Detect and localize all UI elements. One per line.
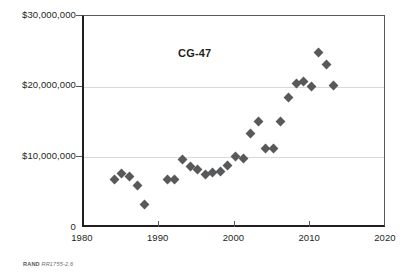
figure-footer: RAND RR1755-2.6 [23,261,73,267]
x-axis-tick [158,221,159,227]
footer-source: RAND [23,261,40,267]
x-axis-tick-label: 1980 [52,232,112,243]
x-axis-tick-label: 2020 [355,232,408,243]
figure-container: CG-47 0$10,000,000$20,000,000$30,000,000… [0,0,408,279]
x-axis-tick [234,221,235,227]
footer-document-id: RR1755-2.6 [41,261,73,267]
x-axis-tick-label: 2000 [204,232,264,243]
x-axis-tick-label: 2010 [279,232,339,243]
x-axis-tick-label: 1990 [128,232,188,243]
x-axis-tick [309,221,310,227]
x-axis: 19801990200020102020 [0,0,408,279]
